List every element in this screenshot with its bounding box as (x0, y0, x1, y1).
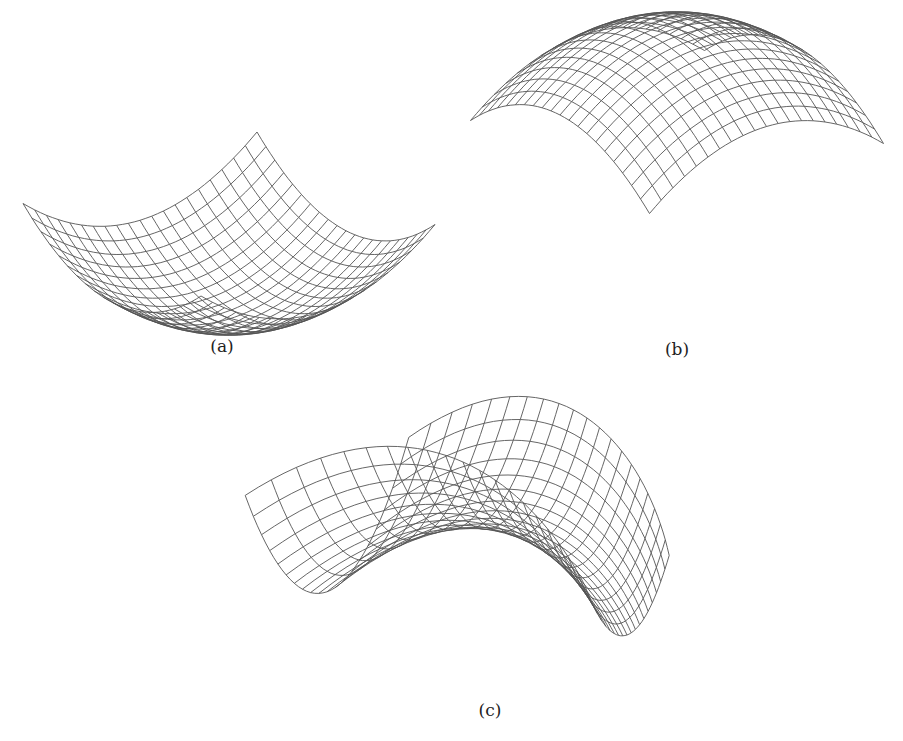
figure: (a) (b) (c) (0, 0, 903, 741)
caption-b: (b) (665, 339, 689, 359)
caption-c: (c) (479, 700, 502, 720)
caption-a: (a) (210, 336, 233, 356)
surface-c-wireframe (0, 0, 903, 741)
